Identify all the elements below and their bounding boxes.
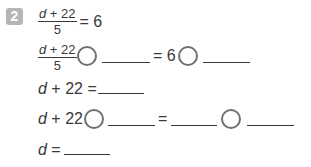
step3-expression: d + 22 [38,110,83,128]
step4-expression: d = [38,141,61,159]
answer-blank-1[interactable] [102,62,150,63]
expression-rest: = [47,141,61,158]
step1-fraction: d + 22 5 [38,43,77,72]
denominator: 5 [54,58,61,72]
step2-expression: d + 22 = [38,80,97,98]
expression-rest: + 22 = [47,80,97,97]
operation-circle-3[interactable] [84,109,104,129]
operation-circle-4[interactable] [221,109,241,129]
answer-blank-3[interactable] [98,93,144,94]
given-rhs: = 6 [80,13,103,31]
step1-equals: = 6 [153,47,176,65]
numerator-rest: + 22 [46,42,75,57]
variable: d [38,141,47,158]
expression-rest: + 22 [47,110,83,127]
variable: d [38,110,47,127]
answer-blank-6[interactable] [247,125,294,126]
problem-number-badge: 2 [6,8,23,25]
variable: d [38,80,47,97]
answer-blank-4[interactable] [108,125,155,126]
answer-blank-2[interactable] [203,62,250,63]
denominator: 5 [54,22,61,36]
given-fraction: d + 22 5 [38,7,77,36]
step3-equals: = [158,110,167,128]
answer-blank-5[interactable] [171,125,217,126]
numerator-rest: + 22 [46,6,75,21]
given-equation: d + 22 5 = 6 [38,7,102,36]
answer-blank-7[interactable] [64,154,110,155]
operation-circle-2[interactable] [178,46,198,66]
operation-circle-1[interactable] [77,46,97,66]
